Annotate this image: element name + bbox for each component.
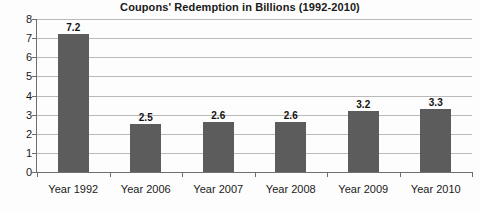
bar xyxy=(58,34,89,172)
bar xyxy=(420,109,451,172)
x-tick-mark xyxy=(327,172,328,177)
gridline xyxy=(37,115,472,116)
y-tick-label: 1 xyxy=(6,147,32,158)
y-tick-label: 3 xyxy=(6,109,32,120)
y-tick-label: 4 xyxy=(6,90,32,101)
bar xyxy=(275,122,306,172)
y-tick-label: 2 xyxy=(6,128,32,139)
gridline xyxy=(37,134,472,135)
x-tick-mark xyxy=(37,172,38,177)
bar-value-label: 2.5 xyxy=(126,113,166,123)
bar xyxy=(348,111,379,172)
y-tick-label: 0 xyxy=(6,167,32,178)
y-tick-label: 7 xyxy=(6,33,32,44)
gridline xyxy=(37,19,472,20)
x-tick-label: Year 2007 xyxy=(178,183,258,195)
x-tick-label: Year 1992 xyxy=(33,183,113,195)
x-tick-mark xyxy=(182,172,183,177)
x-tick-label: Year 2010 xyxy=(396,183,476,195)
y-tick-label: 8 xyxy=(6,14,32,25)
x-tick-mark xyxy=(110,172,111,177)
bar xyxy=(203,122,234,172)
x-tick-label: Year 2006 xyxy=(106,183,186,195)
bar-value-label: 2.6 xyxy=(271,111,311,121)
y-tick-label: 5 xyxy=(6,71,32,82)
gridline xyxy=(37,57,472,58)
x-tick-mark xyxy=(255,172,256,177)
gridline xyxy=(37,38,472,39)
gridline xyxy=(37,153,472,154)
x-tick-mark xyxy=(400,172,401,177)
x-tick-mark xyxy=(472,172,473,177)
y-tick-label: 6 xyxy=(6,52,32,63)
bar-value-label: 3.2 xyxy=(343,100,383,110)
plot-area xyxy=(37,19,472,172)
bar-value-label: 7.2 xyxy=(53,23,93,33)
gridline xyxy=(37,96,472,97)
bar-value-label: 3.3 xyxy=(416,98,456,108)
y-axis-labels: 012345678 xyxy=(0,0,32,214)
gridline xyxy=(37,76,472,77)
bar-chart: Coupons' Redemption in Billions (1992-20… xyxy=(0,0,480,214)
x-tick-label: Year 2008 xyxy=(251,183,331,195)
bar-value-label: 2.6 xyxy=(198,111,238,121)
bar xyxy=(130,124,161,172)
chart-title: Coupons' Redemption in Billions (1992-20… xyxy=(0,1,480,13)
x-tick-label: Year 2009 xyxy=(323,183,403,195)
